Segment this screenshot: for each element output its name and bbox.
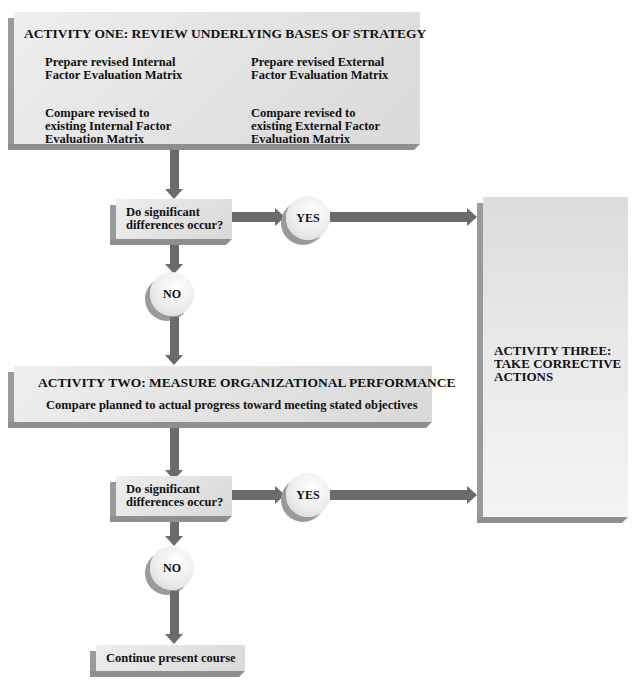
arrow-right-icon (275, 486, 285, 504)
connector-line (232, 212, 276, 222)
arrow-down-icon (165, 536, 183, 546)
activity-two-box: ACTIVITY TWO: MEASURE ORGANIZATIONAL PER… (14, 366, 432, 422)
text-line: ACTIONS (494, 370, 621, 383)
activity-two-subtitle: Compare planned to actual progress towar… (46, 399, 418, 412)
prepare-internal-matrix: Prepare revised Internal Factor Evaluati… (45, 56, 182, 82)
continue-label: Continue present course (106, 652, 236, 665)
connector-line (330, 212, 468, 222)
decision-two-question: Do significant differences occur? (126, 483, 223, 509)
text-line: Factor Evaluation Matrix (45, 69, 182, 82)
decision-one-yes-node: YES (286, 196, 330, 240)
decision-two-no-node: NO (150, 546, 194, 590)
arrow-right-icon (275, 208, 285, 226)
connector-line (170, 591, 179, 635)
arrow-right-icon (467, 486, 477, 504)
arrow-down-icon (165, 355, 183, 365)
connector-line (170, 317, 179, 357)
yes-label: YES (296, 211, 319, 226)
activity-three-title: ACTIVITY THREE: TAKE CORRECTIVE ACTIONS (494, 344, 621, 383)
activity-two-title: ACTIVITY TWO: MEASURE ORGANIZATIONAL PER… (38, 375, 456, 391)
decision-two-box: Do significant differences occur? (116, 476, 232, 516)
text-line: differences occur? (126, 219, 223, 232)
decision-one-question: Do significant differences occur? (126, 206, 223, 232)
continue-present-course-box: Continue present course (96, 645, 245, 671)
no-label: NO (163, 561, 181, 576)
arrow-down-icon (165, 634, 183, 644)
connector-line (170, 428, 179, 471)
yes-label: YES (296, 488, 319, 503)
activity-one-box: ACTIVITY ONE: REVIEW UNDERLYING BASES OF… (14, 12, 420, 144)
connector-line (330, 490, 468, 500)
text-line: Factor Evaluation Matrix (251, 69, 388, 82)
activity-three-box: ACTIVITY THREE: TAKE CORRECTIVE ACTIONS (483, 197, 628, 517)
connector-line (232, 490, 276, 500)
connector-line (170, 245, 179, 265)
text-line: differences occur? (126, 496, 223, 509)
decision-one-box: Do significant differences occur? (116, 199, 232, 239)
prepare-external-matrix: Prepare revised External Factor Evaluati… (251, 56, 388, 82)
compare-internal-matrix: Compare revised to existing Internal Fac… (45, 107, 171, 146)
compare-external-matrix: Compare revised to existing External Fac… (251, 107, 380, 146)
decision-one-no-node: NO (150, 272, 194, 316)
arrow-down-icon (165, 189, 183, 199)
decision-two-yes-node: YES (286, 473, 330, 517)
text-line: Evaluation Matrix (251, 133, 380, 146)
connector-line (170, 150, 179, 191)
no-label: NO (163, 287, 181, 302)
arrow-right-icon (467, 208, 477, 226)
activity-one-title: ACTIVITY ONE: REVIEW UNDERLYING BASES OF… (24, 26, 426, 42)
text-line: Evaluation Matrix (45, 133, 171, 146)
